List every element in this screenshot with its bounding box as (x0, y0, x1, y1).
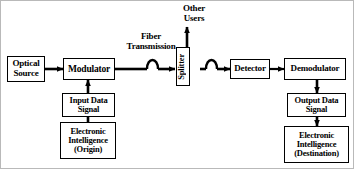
ei-origin-line3: (Origin) (61, 145, 115, 154)
optical-source-line2: Source (8, 69, 44, 79)
detector-label: Detector (231, 64, 269, 74)
splitter-label: Splitter (177, 54, 189, 80)
demodulator-label: Demodulator (285, 64, 345, 74)
fiber-coil-icon-2 (206, 60, 217, 69)
fiber-transmission-line2: Transmission (114, 42, 188, 52)
block-splitter: Splitter (176, 47, 190, 86)
block-electronic-intelligence-origin: Electronic Intelligence (Origin) (60, 122, 116, 159)
block-demodulator: Demodulator (284, 58, 346, 80)
label-other-users: Other Users (168, 4, 220, 24)
other-users-line2: Users (168, 14, 220, 24)
block-input-data-signal: Input Data Signal (62, 93, 115, 117)
modulator-label: Modulator (64, 64, 114, 74)
output-data-signal-line2: Signal (288, 105, 345, 114)
ei-destination-line3: (Destination) (285, 149, 348, 158)
block-detector: Detector (230, 59, 270, 79)
label-fiber-transmission: Fiber Transmission (114, 32, 188, 52)
input-data-signal-line2: Signal (63, 105, 114, 114)
block-optical-source: Optical Source (7, 56, 45, 82)
fiber-optic-system-diagram: Optical Source Modulator Splitter Detect… (0, 0, 354, 169)
fiber-coil-icon-1 (147, 60, 158, 69)
block-modulator: Modulator (63, 58, 115, 80)
block-output-data-signal: Output Data Signal (287, 93, 346, 117)
block-electronic-intelligence-destination: Electronic Intelligence (Destination) (284, 126, 349, 163)
